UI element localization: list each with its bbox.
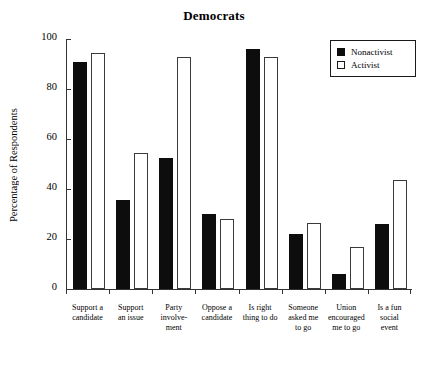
bar-nonactivist <box>332 274 346 289</box>
bar-nonactivist <box>246 49 260 289</box>
x-tick-label: Someone asked me to go <box>282 303 325 333</box>
bar-activist <box>350 247 364 290</box>
x-tick-mark <box>195 289 196 294</box>
bar-activist <box>177 57 191 290</box>
bar-nonactivist <box>375 224 389 289</box>
x-tick-label: Oppose a candidate <box>195 303 238 323</box>
legend-label: Activist <box>351 60 380 70</box>
x-tick-mark <box>368 289 369 294</box>
bar-chart: Democrats Percentage of Respondents 0204… <box>0 0 428 367</box>
bar-nonactivist <box>116 200 130 289</box>
x-tick-label: Party involve- ment <box>152 303 195 333</box>
legend-label: Nonactivist <box>351 47 393 57</box>
x-tick-mark <box>66 289 67 294</box>
bar-group <box>239 39 282 289</box>
x-tick-mark <box>109 289 110 294</box>
bar-activist <box>91 53 105 289</box>
legend-item-nonactivist: Nonactivist <box>337 45 410 58</box>
x-tick-label: Support a candidate <box>66 303 109 323</box>
y-axis-label: Percentage of Respondents <box>6 70 22 260</box>
bar-activist <box>134 153 148 289</box>
x-tick-mark <box>410 289 411 294</box>
bar-nonactivist <box>289 234 303 289</box>
x-tick-label: Is right thing to do <box>239 303 282 323</box>
x-tick-label: Union encouraged me to go <box>325 303 368 333</box>
y-tick-label: 40 <box>47 181 58 192</box>
y-tick-label: 0 <box>52 281 57 292</box>
legend-swatch-hollow-icon <box>337 61 345 69</box>
y-tick-label: 60 <box>47 131 58 142</box>
x-tick-label: Is a fun social event <box>368 303 411 333</box>
bar-group <box>282 39 325 289</box>
bar-nonactivist <box>202 214 216 289</box>
x-tick-mark <box>325 289 326 294</box>
x-tick-mark <box>282 289 283 294</box>
bar-group <box>109 39 152 289</box>
bar-nonactivist <box>159 158 173 289</box>
x-tick-label: Support an issue <box>109 303 152 323</box>
legend-swatch-filled-icon <box>337 48 345 56</box>
bar-activist <box>264 57 278 290</box>
bar-activist <box>393 180 407 289</box>
bar-group <box>66 39 109 289</box>
chart-title: Democrats <box>0 8 428 24</box>
bar-activist <box>220 219 234 289</box>
bar-group <box>195 39 238 289</box>
x-tick-mark <box>152 289 153 294</box>
bar-nonactivist <box>73 62 87 290</box>
x-tick-mark <box>239 289 240 294</box>
legend-item-activist: Activist <box>337 58 410 71</box>
bar-activist <box>307 223 321 289</box>
y-tick-label: 20 <box>47 231 58 242</box>
y-tick-label: 100 <box>41 31 57 42</box>
bar-group <box>152 39 195 289</box>
y-tick-label: 80 <box>47 81 58 92</box>
legend: Nonactivist Activist <box>330 40 416 77</box>
